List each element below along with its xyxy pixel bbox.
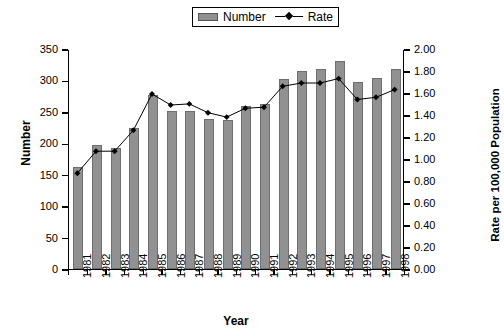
x-axis-title: Year bbox=[68, 314, 404, 328]
bar-1985 bbox=[148, 95, 158, 269]
right-tick-2.00 bbox=[404, 49, 410, 50]
y-axis-title-left: Number bbox=[19, 83, 33, 203]
x-tick-label-1995: 1995 bbox=[344, 254, 355, 278]
bar-1986 bbox=[167, 111, 177, 269]
x-tick-label-1989: 1989 bbox=[232, 254, 243, 278]
bar-1988 bbox=[204, 119, 214, 269]
left-tick-200 bbox=[62, 144, 68, 145]
right-tick-1.60 bbox=[404, 93, 410, 94]
x-tick-label-1981: 1981 bbox=[82, 254, 93, 278]
right-tick-0.20 bbox=[404, 247, 410, 248]
x-tick-label-1982: 1982 bbox=[101, 254, 112, 278]
bar-1993 bbox=[297, 71, 307, 269]
left-tick-250 bbox=[62, 112, 68, 113]
x-tick-label-1987: 1987 bbox=[194, 254, 205, 278]
right-tick-1.20 bbox=[404, 137, 410, 138]
x-tick-label-1994: 1994 bbox=[325, 254, 336, 278]
right-tick-label-0.40: 0.40 bbox=[414, 220, 435, 231]
chart-figure: Number Rate 050100150200250300350 0.000.… bbox=[0, 0, 504, 335]
y-axis-title-right: Rate per 100,000 Population bbox=[489, 55, 501, 275]
bar-1987 bbox=[185, 111, 195, 269]
legend-item-rate: Rate bbox=[275, 8, 333, 26]
right-tick-label-1.80: 1.80 bbox=[414, 66, 435, 77]
bar-1996 bbox=[353, 82, 363, 269]
x-tick-label-1984: 1984 bbox=[138, 254, 149, 278]
line-marker-icon bbox=[275, 12, 303, 22]
x-tick-label-1992: 1992 bbox=[288, 254, 299, 278]
left-tick-50 bbox=[62, 238, 68, 239]
bar-1984 bbox=[129, 128, 139, 269]
x-tick-label-1997: 1997 bbox=[381, 254, 392, 278]
right-tick-1.40 bbox=[404, 115, 410, 116]
x-tick-label-1988: 1988 bbox=[213, 254, 224, 278]
right-tick-1.80 bbox=[404, 71, 410, 72]
x-tick-label-1991: 1991 bbox=[269, 254, 280, 278]
bar-1982 bbox=[92, 145, 102, 269]
bar-1997 bbox=[372, 78, 382, 269]
bar-1994 bbox=[316, 69, 326, 270]
right-tick-label-0.00: 0.00 bbox=[414, 264, 435, 275]
right-tick-label-1.20: 1.20 bbox=[414, 132, 435, 143]
right-tick-label-1.60: 1.60 bbox=[414, 88, 435, 99]
right-tick-1.00 bbox=[404, 159, 410, 160]
bar-swatch-icon bbox=[198, 13, 218, 21]
x-tick-label-1983: 1983 bbox=[120, 254, 131, 278]
bar-1991 bbox=[260, 104, 270, 269]
left-tick-label-0: 0 bbox=[16, 264, 58, 275]
right-tick-label-0.60: 0.60 bbox=[414, 198, 435, 209]
x-tick-label-1998: 1998 bbox=[400, 254, 411, 278]
right-tick-label-1.00: 1.00 bbox=[414, 154, 435, 165]
right-tick-label-2.00: 2.00 bbox=[414, 44, 435, 55]
left-tick-350 bbox=[62, 49, 68, 50]
x-tick-label-1986: 1986 bbox=[176, 254, 187, 278]
bar-1995 bbox=[335, 61, 345, 269]
legend-item-number: Number bbox=[198, 8, 266, 26]
left-tick-150 bbox=[62, 175, 68, 176]
x-tick-label-1985: 1985 bbox=[157, 254, 168, 278]
right-tick-label-1.40: 1.40 bbox=[414, 110, 435, 121]
right-tick-label-0.20: 0.20 bbox=[414, 242, 435, 253]
right-tick-label-0.80: 0.80 bbox=[414, 176, 435, 187]
bar-1983 bbox=[111, 148, 121, 269]
legend-label-rate: Rate bbox=[308, 11, 333, 23]
legend-label-number: Number bbox=[223, 11, 266, 23]
plot-area bbox=[68, 50, 404, 270]
x-tick-label-1996: 1996 bbox=[362, 254, 373, 278]
left-tick-label-50: 50 bbox=[16, 233, 58, 244]
left-tick-100 bbox=[62, 206, 68, 207]
x-tick-label-1990: 1990 bbox=[250, 254, 261, 278]
left-tick-300 bbox=[62, 81, 68, 82]
bar-1990 bbox=[241, 106, 251, 269]
chart-legend: Number Rate bbox=[192, 7, 339, 27]
bar-1998 bbox=[391, 69, 401, 269]
left-tick-label-350: 350 bbox=[16, 44, 58, 55]
x-tick-label-1993: 1993 bbox=[306, 254, 317, 278]
right-tick-0.80 bbox=[404, 181, 410, 182]
bar-1992 bbox=[279, 79, 289, 269]
bar-1989 bbox=[223, 120, 233, 269]
right-tick-0.60 bbox=[404, 203, 410, 204]
x-tick-0 bbox=[68, 270, 69, 275]
right-tick-0.40 bbox=[404, 225, 410, 226]
